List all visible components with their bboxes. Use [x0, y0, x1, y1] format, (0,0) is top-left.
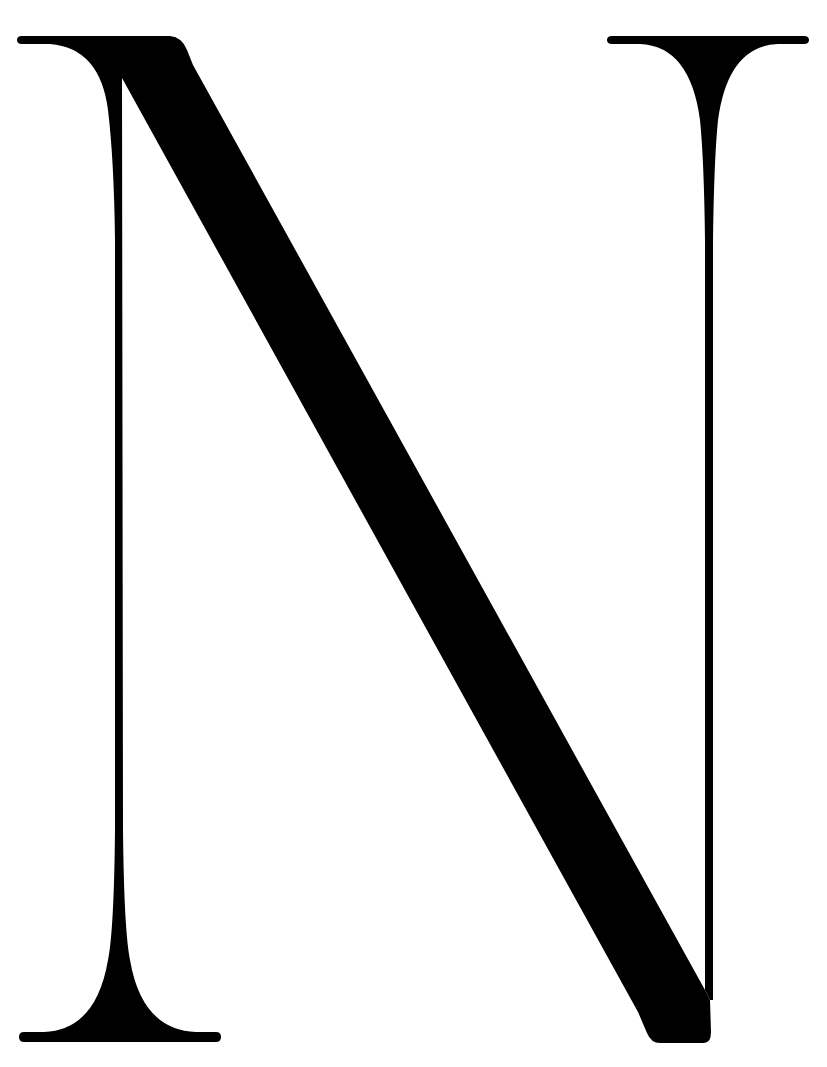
letter-canvas: N — [0, 0, 827, 1067]
letter-n-glyph — [0, 0, 827, 1067]
